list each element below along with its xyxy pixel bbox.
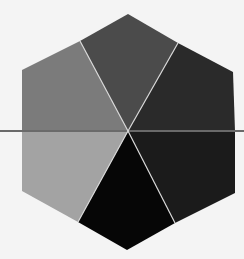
hexagon-diagram — [0, 0, 244, 259]
